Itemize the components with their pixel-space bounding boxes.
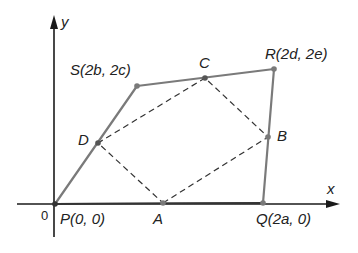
label-q: Q(2a, 0) [256,210,311,227]
origin-label: 0 [41,208,48,223]
point-p [52,201,58,207]
midpoint-quadrilateral-abcd [98,78,268,203]
label-a: A [152,210,163,227]
x-axis-label: x [326,180,335,197]
point-c [202,75,208,81]
point-a [160,200,166,206]
x-axis-arrow-icon [326,200,340,208]
point-s [134,83,140,89]
label-p: P(0, 0) [60,210,105,227]
y-axis-arrow-icon [50,15,58,29]
coordinate-diagram: y x 0 P(0, 0) Q(2a, 0) R(2d, 2e) S(2b, 2… [0,0,358,253]
point-q [260,200,266,206]
label-c: C [199,54,210,71]
point-r [271,66,277,72]
label-r: R(2d, 2e) [265,45,328,62]
label-d: D [78,131,89,148]
point-d [95,140,101,146]
y-axis-label: y [60,13,70,30]
label-b: B [277,127,287,144]
point-b [265,134,271,140]
label-s: S(2b, 2c) [70,61,131,78]
side-pq [55,203,263,204]
